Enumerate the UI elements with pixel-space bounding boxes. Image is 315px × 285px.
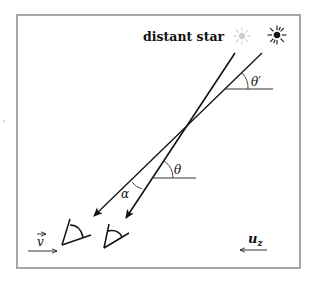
alpha-label: α bbox=[121, 187, 129, 201]
uz-subscript: z bbox=[256, 238, 263, 248]
distant-star-label: distant star bbox=[143, 29, 225, 44]
aberration-diagram: : distant star θ′ θ α bbox=[0, 0, 315, 285]
theta-label: θ bbox=[174, 163, 182, 177]
ghost-star-icon bbox=[233, 27, 251, 45]
theta-prime-label: θ′ bbox=[251, 75, 261, 89]
diagram-frame bbox=[17, 15, 300, 268]
real-star-icon bbox=[268, 26, 287, 45]
velocity-label: v bbox=[37, 235, 44, 249]
stray-mark: : bbox=[3, 117, 5, 125]
